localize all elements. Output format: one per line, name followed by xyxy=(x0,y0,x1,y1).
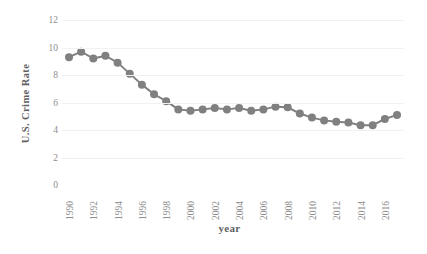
data-point-2017 xyxy=(393,111,401,119)
data-point-1999 xyxy=(174,105,182,113)
data-point-1993 xyxy=(101,52,109,60)
crime-rate-line-chart: U.S. Crime Rate 121086420 19901992199419… xyxy=(0,0,427,254)
x-tick-label-2008: 2008 xyxy=(283,186,295,220)
y-tick-label-4: 4 xyxy=(34,125,58,135)
y-tick-label-12: 12 xyxy=(34,15,58,25)
data-point-2014 xyxy=(357,121,365,129)
data-point-2008 xyxy=(284,103,292,111)
x-tick-label-1998: 1998 xyxy=(161,186,173,220)
y-tick-label-6: 6 xyxy=(34,98,58,108)
x-tick-label-2010: 2010 xyxy=(307,186,319,220)
data-point-1992 xyxy=(89,55,97,63)
y-tick-label-2: 2 xyxy=(34,153,58,163)
gridline-2 xyxy=(62,158,404,159)
data-point-1996 xyxy=(138,81,146,89)
data-point-1997 xyxy=(150,90,158,98)
gridline-8 xyxy=(62,75,404,76)
data-point-2004 xyxy=(235,104,243,112)
x-axis-title-label: year xyxy=(219,222,241,234)
data-point-1991 xyxy=(77,48,85,56)
data-point-2000 xyxy=(186,107,194,115)
x-tick-label-1990: 1990 xyxy=(64,186,76,220)
x-axis-tick-labels: 1990199219941996199820002002200420062008… xyxy=(62,186,404,220)
x-tick-label-1994: 1994 xyxy=(113,186,125,220)
gridline-4 xyxy=(62,130,404,131)
data-point-2013 xyxy=(344,118,352,126)
gridline-6 xyxy=(62,103,404,104)
x-axis-title: year xyxy=(0,222,427,234)
data-point-2015 xyxy=(369,121,377,129)
data-point-2005 xyxy=(247,107,255,115)
data-point-2010 xyxy=(308,114,316,122)
y-tick-label-8: 8 xyxy=(34,70,58,80)
x-tick-label-2006: 2006 xyxy=(258,186,270,220)
x-tick-label-2016: 2016 xyxy=(380,186,392,220)
x-tick-label-2000: 2000 xyxy=(185,186,197,220)
gridline-10 xyxy=(62,48,404,49)
x-tick-label-2004: 2004 xyxy=(234,186,246,220)
data-point-2003 xyxy=(223,105,231,113)
data-point-1998 xyxy=(162,97,170,105)
x-tick-label-2012: 2012 xyxy=(331,186,343,220)
data-point-1995 xyxy=(126,70,134,78)
data-point-2002 xyxy=(211,104,219,112)
data-point-2009 xyxy=(296,110,304,118)
x-tick-label-2014: 2014 xyxy=(356,186,368,220)
data-point-2007 xyxy=(272,103,280,111)
y-tick-label-10: 10 xyxy=(34,43,58,53)
y-axis-tick-labels: 121086420 xyxy=(34,20,58,185)
y-axis-title-label: U.S. Crime Rate xyxy=(21,63,32,142)
x-tick-label-1996: 1996 xyxy=(137,186,149,220)
data-point-2012 xyxy=(332,118,340,126)
plot-area xyxy=(62,20,404,185)
data-point-2006 xyxy=(259,105,267,113)
data-point-2016 xyxy=(381,115,389,123)
x-tick-label-1992: 1992 xyxy=(88,186,100,220)
x-tick-label-2002: 2002 xyxy=(210,186,222,220)
data-point-2011 xyxy=(320,116,328,124)
data-point-2001 xyxy=(199,105,207,113)
data-point-1994 xyxy=(114,59,122,67)
data-point-1990 xyxy=(65,53,73,61)
gridline-12 xyxy=(62,20,404,21)
series-markers xyxy=(65,48,401,130)
y-tick-label-0: 0 xyxy=(34,180,58,190)
